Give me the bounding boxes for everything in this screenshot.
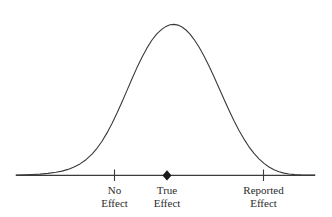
- bell-curve-figure: No Effect True Effect Reported Effect: [0, 0, 332, 217]
- label-reported-effect: Reported Effect: [218, 184, 309, 209]
- normal-curve-path: [16, 24, 315, 175]
- label-true-effect-line-2: Effect: [127, 197, 207, 210]
- diamond-marker-true-effect: [163, 171, 171, 181]
- label-true-effect-line-1: True: [127, 184, 207, 197]
- label-true-effect: True Effect: [127, 184, 207, 209]
- label-reported-effect-line-1: Reported: [218, 184, 309, 197]
- label-reported-effect-line-2: Effect: [218, 197, 309, 210]
